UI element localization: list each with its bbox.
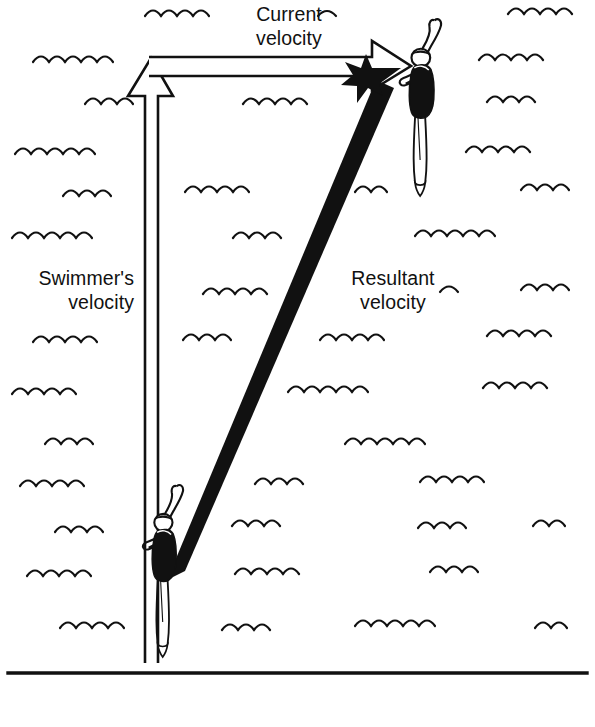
resultant-velocity-vector xyxy=(167,54,401,580)
current-velocity-label: Current velocity xyxy=(214,2,364,50)
resultant-velocity-label: Resultant velocity xyxy=(318,266,468,314)
vector-diagram-svg xyxy=(0,0,595,727)
swimmer-velocity-label: Swimmer's velocity xyxy=(6,266,134,314)
diagram-canvas: Current velocity Swimmer's velocity Resu… xyxy=(0,0,595,727)
swimmer-figure-end xyxy=(400,19,441,196)
